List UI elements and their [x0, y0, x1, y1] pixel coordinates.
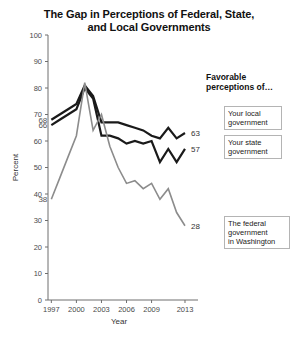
- series-end-label-0: 63: [191, 129, 200, 138]
- x-tick-label: 1997: [43, 305, 60, 314]
- x-tick-label: 2000: [68, 305, 85, 314]
- y-tick-label: 50: [34, 163, 42, 172]
- x-tick-label: 2003: [93, 305, 110, 314]
- chart-container: The Gap in Perceptions of Federal, State…: [0, 0, 298, 338]
- chart-plot-area: 0102030405060708090100 19972000200320062…: [0, 0, 298, 338]
- series-end-label-2: 28: [191, 222, 200, 231]
- y-axis: 0102030405060708090100: [29, 31, 48, 305]
- legend-heading-line-2: perceptions of…: [206, 82, 298, 92]
- x-tick-label: 2006: [118, 305, 135, 314]
- legend-item-local-government[interactable]: Your local government: [224, 106, 282, 130]
- y-tick-label: 60: [34, 137, 42, 146]
- legend-federal-line-2: government: [228, 228, 286, 237]
- legend-heading-line-1: Favorable: [206, 72, 298, 82]
- legend-local-line-1: Your local: [228, 109, 278, 118]
- y-tick-label: 0: [38, 296, 42, 305]
- legend-federal-line-3: in Washington: [228, 237, 286, 246]
- x-tick-label: 2009: [143, 305, 160, 314]
- y-tick-label: 10: [34, 269, 42, 278]
- series-end-label-1: 57: [191, 145, 200, 154]
- x-axis-title: Year: [111, 317, 128, 326]
- legend-state-line-1: Your state: [228, 138, 278, 147]
- legend-item-state-government[interactable]: Your state government: [224, 135, 282, 159]
- legend-state-line-2: government: [228, 147, 278, 156]
- legend-federal-line-1: The federal: [228, 219, 286, 228]
- series-start-label-2: 38: [38, 195, 47, 204]
- series-line-1: [51, 88, 185, 162]
- legend-local-line-2: government: [228, 118, 278, 127]
- series-value-labels: 686366573828: [38, 116, 200, 231]
- y-axis-title: Percent: [11, 153, 20, 181]
- y-tick-label: 100: [29, 31, 42, 40]
- y-tick-label: 90: [34, 57, 42, 66]
- y-tick-label: 80: [34, 84, 42, 93]
- x-tick-label: 2013: [177, 305, 194, 314]
- legend-heading: Favorable perceptions of…: [206, 72, 298, 92]
- x-axis: 199720002003200620092013: [43, 300, 198, 314]
- y-tick-label: 20: [34, 243, 42, 252]
- series-lines: [51, 83, 185, 226]
- legend-item-federal-government[interactable]: The federal government in Washington: [224, 216, 290, 249]
- y-tick-label: 30: [34, 216, 42, 225]
- series-start-label-1: 66: [38, 121, 47, 130]
